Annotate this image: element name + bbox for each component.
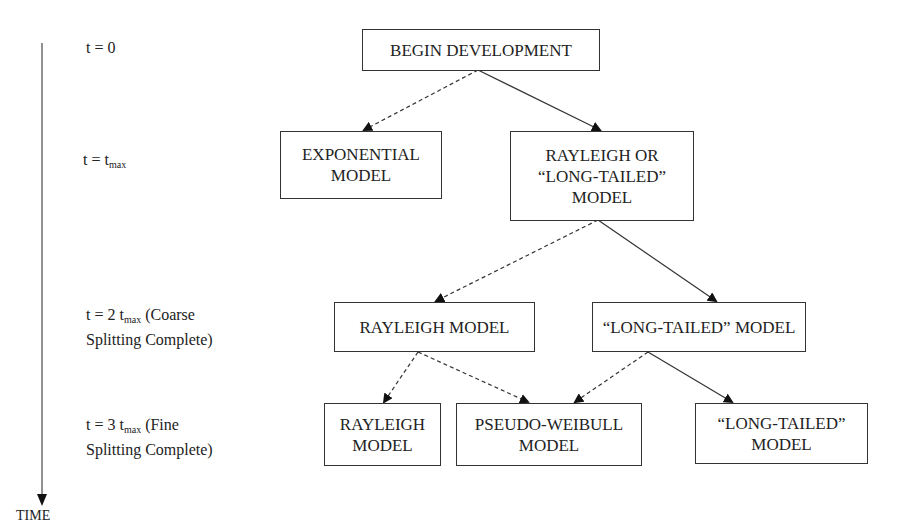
- time-label-text: t = 3 t: [86, 416, 124, 433]
- node-label: RAYLEIGH MODEL: [359, 317, 509, 338]
- time-label-2tmax: t = 2 tmax (Coarse Splitting Complete): [86, 305, 213, 350]
- time-label-suffix: (Fine: [141, 416, 179, 433]
- edge-begin-exponential: [364, 70, 478, 130]
- time-label-subscript: max: [124, 424, 141, 435]
- node-long-tailed-model-coarse: “LONG-TAILED” MODEL: [592, 302, 806, 352]
- time-label-text: t = 0: [86, 39, 115, 56]
- time-label-t0: t = 0: [86, 38, 115, 58]
- node-label: EXPONENTIAL MODEL: [302, 144, 420, 186]
- node-label: “LONG-TAILED” MODEL: [718, 413, 846, 455]
- node-label: RAYLEIGH MODEL: [340, 414, 425, 456]
- time-label-line2: Splitting Complete): [86, 440, 213, 460]
- edge-rayleigh-coarse-pseudo: [418, 352, 528, 402]
- node-begin-development: BEGIN DEVELOPMENT: [362, 29, 600, 71]
- edge-rol-rayleigh-coarse: [436, 220, 598, 301]
- edge-long-coarse-pseudo: [575, 352, 648, 402]
- node-rayleigh-model-coarse: RAYLEIGH MODEL: [334, 302, 535, 352]
- node-long-tailed-model-fine: “LONG-TAILED” MODEL: [695, 403, 868, 464]
- time-label-text: t = t: [83, 151, 109, 168]
- time-axis-label: TIME: [16, 508, 50, 524]
- node-rayleigh-or-long-tailed-model: RAYLEIGH OR “LONG-TAILED” MODEL: [510, 131, 694, 221]
- time-axis-arrowhead-icon: [37, 494, 47, 506]
- edge-long-coarse-fine: [648, 352, 732, 402]
- node-label: PSEUDO-WEIBULL MODEL: [475, 414, 623, 456]
- time-label-line2: Splitting Complete): [86, 330, 213, 350]
- node-pseudo-weibull-model: PSEUDO-WEIBULL MODEL: [456, 403, 642, 466]
- time-label-subscript: max: [109, 159, 126, 170]
- time-label-text: t = 2 t: [86, 306, 124, 323]
- node-label: “LONG-TAILED” MODEL: [603, 317, 796, 338]
- time-label-3tmax: t = 3 tmax (Fine Splitting Complete): [86, 415, 213, 460]
- node-label: RAYLEIGH OR “LONG-TAILED” MODEL: [538, 145, 666, 208]
- node-rayleigh-model-fine: RAYLEIGH MODEL: [324, 403, 441, 466]
- edge-rayleigh-coarse-fine: [384, 352, 418, 402]
- time-label-subscript: max: [124, 314, 141, 325]
- time-label-tmax: t = tmax: [83, 150, 126, 175]
- node-label: BEGIN DEVELOPMENT: [390, 40, 572, 61]
- node-exponential-model: EXPONENTIAL MODEL: [280, 131, 442, 199]
- edge-rol-long-coarse: [598, 220, 716, 301]
- time-label-suffix: (Coarse: [141, 306, 195, 323]
- edge-begin-rayleigh-or-long: [478, 70, 600, 130]
- model-evolution-diagram: t = 0 t = tmax t = 2 tmax (Coarse Splitt…: [0, 0, 917, 527]
